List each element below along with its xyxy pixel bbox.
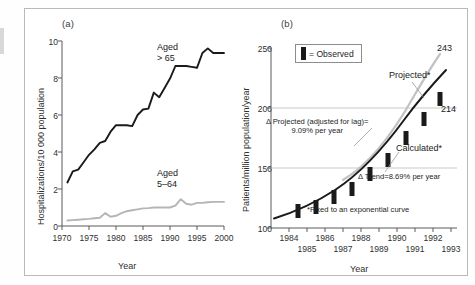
figure-container: (a) Hospitalizations/10 000 population Y… xyxy=(0,0,475,285)
observed-swatch-icon xyxy=(301,47,306,60)
panel-b-legend: = Observed xyxy=(295,44,362,63)
annotation-line1: Δ Projected (adjusted for lag)= xyxy=(266,117,368,126)
panel-b-value-243: 243 xyxy=(437,43,452,53)
observed-bar xyxy=(422,112,427,126)
panel-b-label-calculated: Calculated* xyxy=(396,143,442,153)
panel-b-label-projected: Projected* xyxy=(389,70,431,80)
observed-bar xyxy=(332,190,337,204)
annotation-line2: 9.09% per year xyxy=(291,126,343,135)
legend-observed-label: = Observed xyxy=(309,49,354,59)
panel-b-observed-bars xyxy=(296,92,443,218)
panel-b-annotation-projected-delta: Δ Projected (adjusted for lag)= 9.09% pe… xyxy=(266,117,368,136)
panel-b-annotation-trend: Δ Trend=8.69% per year xyxy=(358,172,440,181)
observed-bar xyxy=(296,204,301,218)
panel-b-value-214: 214 xyxy=(441,104,456,114)
panel-b-annotation-footnote: *Fixed to an exponential curve xyxy=(307,205,409,214)
observed-bar xyxy=(350,182,355,196)
